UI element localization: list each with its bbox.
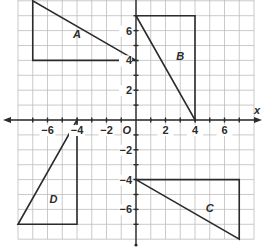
x-tick-label: −6: [41, 124, 54, 136]
x-tick-label: −2: [100, 124, 113, 136]
x-tick-label: 4: [192, 124, 199, 136]
y-tick-label: −4: [119, 174, 132, 186]
y-tick-label: 2: [126, 84, 132, 96]
coordinate-plane: ABCD −6−4−2246642−2−4−6Ox: [0, 0, 263, 247]
x-tick-label: 6: [221, 124, 227, 136]
x-tick-label: −4: [71, 124, 84, 136]
x-axis-label: x: [253, 104, 261, 116]
y-tick-label: 4: [126, 54, 133, 66]
x-axis-left-arrow-icon: [3, 117, 11, 123]
y-tick-label: −6: [119, 203, 132, 215]
x-tick-label: 2: [162, 124, 168, 136]
triangle-label-a: A: [72, 28, 81, 40]
origin-label: O: [122, 124, 131, 136]
triangle-label-c: C: [206, 202, 215, 214]
y-tick-label: 6: [126, 25, 132, 37]
y-axis-end-dot-icon: [134, 243, 137, 246]
triangle-label-b: B: [176, 50, 184, 62]
x-axis-right-arrow-icon: [254, 117, 262, 123]
triangle-label-d: D: [49, 193, 57, 205]
y-tick-label: −2: [119, 144, 132, 156]
